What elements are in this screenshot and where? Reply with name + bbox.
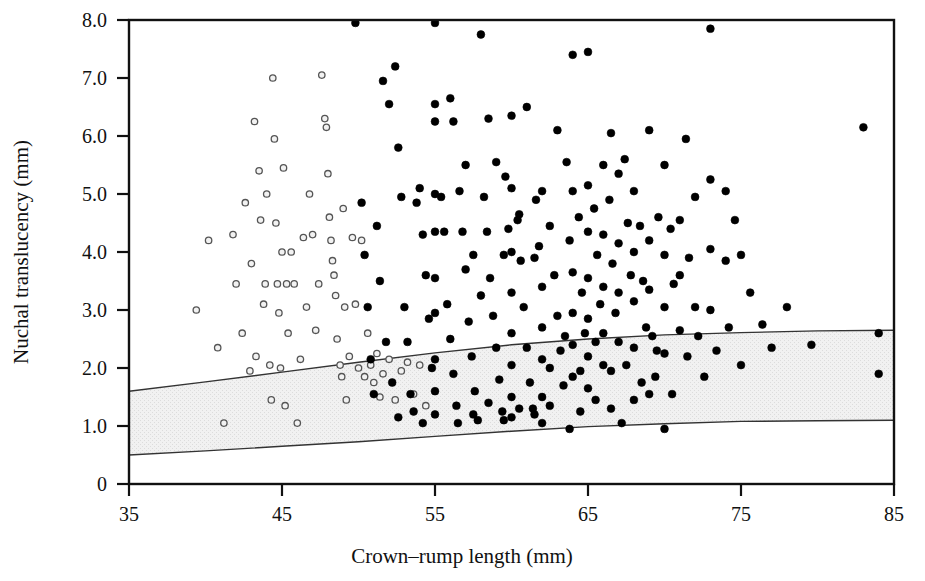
- filled-data-point: [768, 344, 776, 352]
- filled-data-point: [440, 228, 448, 236]
- x-axis-tick-label: 75: [731, 503, 751, 525]
- open-data-point: [404, 359, 410, 365]
- filled-data-point: [584, 274, 592, 282]
- filled-data-point: [505, 225, 513, 233]
- filled-data-point: [599, 361, 607, 369]
- filled-data-point: [419, 231, 427, 239]
- filled-data-point: [508, 413, 516, 421]
- open-data-point: [239, 330, 245, 336]
- filled-data-point: [538, 355, 546, 363]
- y-axis-tick-label: 5.0: [82, 183, 107, 205]
- filled-data-point: [515, 210, 523, 218]
- filled-data-point: [446, 335, 454, 343]
- filled-data-point: [546, 364, 554, 372]
- filled-data-point: [584, 384, 592, 392]
- y-axis-tick-label: 0: [97, 473, 107, 495]
- x-axis-tick-label: 35: [119, 503, 139, 525]
- open-data-point: [279, 249, 285, 255]
- filled-data-point: [508, 248, 516, 256]
- open-data-point: [288, 249, 294, 255]
- filled-data-point: [860, 123, 868, 131]
- filled-data-point: [535, 242, 543, 250]
- filled-data-point: [596, 300, 604, 308]
- filled-data-point: [676, 271, 684, 279]
- filled-data-point: [676, 326, 684, 334]
- filled-data-point: [526, 379, 534, 387]
- filled-data-point: [808, 341, 816, 349]
- filled-data-point: [428, 364, 436, 372]
- open-data-point: [247, 368, 253, 374]
- filled-data-point: [607, 367, 615, 375]
- x-axis-tick-label: 85: [884, 503, 904, 525]
- open-data-point: [230, 231, 236, 237]
- filled-data-point: [370, 390, 378, 398]
- filled-data-point: [737, 361, 745, 369]
- filled-data-point: [645, 390, 653, 398]
- filled-data-point: [401, 303, 409, 311]
- open-data-point: [257, 217, 263, 223]
- open-data-point: [386, 356, 392, 362]
- filled-data-point: [682, 135, 690, 143]
- filled-data-point: [508, 393, 516, 401]
- filled-data-point: [361, 251, 369, 259]
- open-data-point: [371, 379, 377, 385]
- open-data-point: [276, 310, 282, 316]
- filled-data-point: [477, 31, 485, 39]
- filled-data-point: [694, 332, 702, 340]
- open-data-point: [358, 237, 364, 243]
- filled-data-point: [508, 112, 516, 120]
- filled-data-point: [584, 48, 592, 56]
- filled-data-point: [599, 329, 607, 337]
- filled-data-point: [661, 161, 669, 169]
- open-data-point: [339, 374, 345, 380]
- filled-data-point: [431, 355, 439, 363]
- open-data-point: [262, 281, 268, 287]
- filled-data-point: [576, 408, 584, 416]
- filled-data-point: [584, 228, 592, 236]
- filled-data-point: [554, 126, 562, 134]
- filled-data-point: [508, 361, 516, 369]
- filled-data-point: [731, 216, 739, 224]
- filled-data-point: [624, 219, 632, 227]
- filled-data-point: [523, 103, 531, 111]
- open-data-point: [328, 237, 334, 243]
- open-data-point: [193, 307, 199, 313]
- filled-data-point: [592, 396, 600, 404]
- filled-data-point: [737, 251, 745, 259]
- filled-data-point: [492, 158, 500, 166]
- filled-data-point: [413, 199, 421, 207]
- filled-data-point: [566, 425, 574, 433]
- filled-data-point: [394, 144, 402, 152]
- filled-data-point: [569, 341, 577, 349]
- filled-data-point: [581, 329, 589, 337]
- filled-data-point: [454, 419, 462, 427]
- filled-data-point: [422, 271, 430, 279]
- y-axis-tick-label: 7.0: [82, 67, 107, 89]
- open-data-point: [352, 301, 358, 307]
- filled-data-point: [498, 408, 506, 416]
- filled-data-point: [358, 199, 366, 207]
- open-data-point: [285, 330, 291, 336]
- open-data-point: [273, 220, 279, 226]
- filled-data-point: [566, 237, 574, 245]
- filled-data-point: [538, 393, 546, 401]
- filled-data-point: [550, 271, 558, 279]
- filled-data-point: [560, 382, 568, 390]
- filled-data-point: [707, 245, 715, 253]
- filled-data-point: [492, 344, 500, 352]
- open-data-point: [365, 330, 371, 336]
- filled-data-point: [713, 347, 721, 355]
- filled-data-point: [578, 289, 586, 297]
- filled-data-point: [376, 277, 384, 285]
- filled-data-point: [645, 237, 653, 245]
- filled-data-point: [431, 118, 439, 126]
- filled-data-point: [569, 309, 577, 317]
- open-data-point: [271, 136, 277, 142]
- x-axis-tick-label: 65: [578, 503, 598, 525]
- open-data-point: [309, 231, 315, 237]
- filled-data-point: [700, 373, 708, 381]
- open-data-point: [355, 365, 361, 371]
- filled-data-point: [500, 251, 508, 259]
- filled-data-point: [563, 158, 571, 166]
- filled-data-point: [668, 390, 676, 398]
